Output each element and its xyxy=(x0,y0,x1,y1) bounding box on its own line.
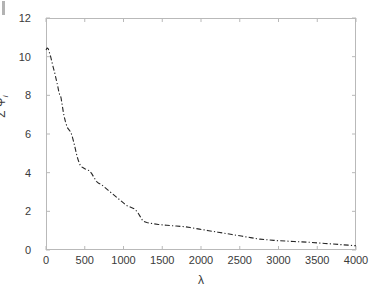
y-tick-label: 0 xyxy=(0,244,31,256)
y-tick-label: 10 xyxy=(0,51,31,63)
y-tick-label: 4 xyxy=(0,167,31,179)
x-tick-label: 3500 xyxy=(305,254,329,266)
y-axis-label-subscript: i xyxy=(1,95,10,97)
x-tick-label: 1000 xyxy=(111,254,135,266)
y-tick-label: 12 xyxy=(0,12,31,24)
x-axis-label: λ xyxy=(198,273,204,287)
x-tick-label: 2500 xyxy=(228,254,252,266)
y-axis-label-sigma: Σ Ψ xyxy=(0,97,8,118)
plot-area xyxy=(46,18,356,250)
x-tick-label: 2000 xyxy=(189,254,213,266)
data-series-line xyxy=(46,48,356,246)
x-tick-label: 3000 xyxy=(266,254,290,266)
x-tick-label: 0 xyxy=(43,254,49,266)
figure-root: 024681012 050010001500200025003000350040… xyxy=(0,0,383,296)
plot-svg xyxy=(46,18,356,250)
y-tick-label: 2 xyxy=(0,205,31,217)
y-axis-label: Σ Ψi xyxy=(0,95,10,118)
x-tick-label: 500 xyxy=(76,254,94,266)
x-tick-label: 1500 xyxy=(150,254,174,266)
x-tick-label: 4000 xyxy=(344,254,368,266)
y-tick-label: 6 xyxy=(0,128,31,140)
tick-marks-group xyxy=(46,18,356,250)
